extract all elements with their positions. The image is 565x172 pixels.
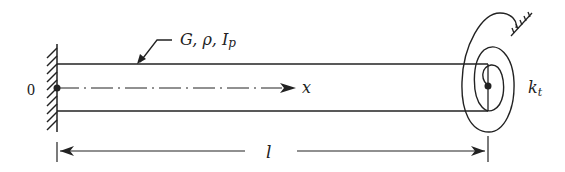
origin-label: 0: [27, 81, 35, 98]
length-label: l: [266, 142, 271, 162]
torsional-spring: [462, 0, 516, 132]
spring-attach-point: [485, 83, 492, 90]
axis-label: x: [302, 78, 311, 97]
spring-label: kt: [528, 78, 543, 99]
properties-label: G, ρ, Ip: [180, 30, 236, 50]
length-dimension: [57, 136, 488, 162]
origin-point: [54, 85, 61, 92]
spring-ground: [511, 12, 532, 36]
x-axis-centerline: [54, 83, 297, 93]
property-leader-arrow: [137, 40, 172, 64]
shaft-diagram: 0 G, ρ, Ip x l kt: [0, 0, 565, 172]
